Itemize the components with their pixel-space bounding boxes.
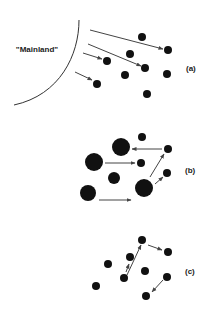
habitat-patch — [126, 50, 134, 58]
habitat-patch — [108, 172, 120, 184]
habitat-patch — [85, 153, 103, 171]
habitat-patch — [138, 33, 146, 41]
panel-a-label: (a) — [186, 64, 196, 73]
habitat-patch — [80, 185, 96, 201]
migration-arrow — [155, 177, 163, 184]
panel-c-label: (c) — [185, 267, 195, 276]
habitat-patch — [138, 133, 146, 141]
migration-arrow — [150, 154, 164, 177]
habitat-patch — [93, 80, 101, 88]
habitat-patch — [163, 70, 171, 78]
migration-arrow — [83, 53, 102, 59]
habitat-patch — [92, 282, 100, 290]
habitat-patch — [143, 90, 151, 98]
panel-b — [80, 133, 172, 201]
panel-a — [75, 30, 172, 98]
panel-c — [92, 236, 172, 300]
habitat-patch — [141, 64, 149, 72]
habitat-patch — [164, 248, 172, 256]
habitat-patch — [126, 253, 134, 261]
habitat-patch — [120, 274, 128, 282]
habitat-patch — [135, 179, 153, 197]
migration-arrow — [75, 72, 92, 80]
habitat-patch — [137, 159, 145, 167]
mainland-boundary — [14, 20, 79, 105]
habitat-patch — [112, 138, 130, 156]
migration-arrow — [148, 245, 162, 250]
habitat-patch — [164, 46, 172, 54]
metapopulation-diagram: "Mainland" (a) (b) (c) — [0, 0, 209, 315]
migration-arrow — [90, 30, 163, 49]
habitat-patch — [164, 145, 172, 153]
habitat-patch — [104, 260, 112, 268]
habitat-patch — [163, 273, 171, 281]
habitat-patch — [142, 292, 150, 300]
habitat-patch — [141, 267, 149, 275]
habitat-patch — [138, 236, 146, 244]
habitat-patch — [103, 57, 111, 65]
mainland-label: "Mainland" — [16, 45, 58, 54]
panel-b-label: (b) — [185, 166, 196, 175]
habitat-patch — [163, 169, 171, 177]
migration-arrow — [152, 280, 163, 292]
habitat-patch — [121, 71, 129, 79]
